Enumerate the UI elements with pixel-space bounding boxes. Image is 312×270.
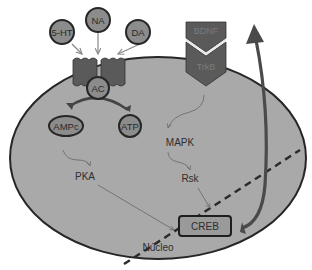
trkb-label: TrkB <box>197 62 216 72</box>
ligand-na-label: NA <box>91 15 105 26</box>
node-atp: ATP <box>119 115 141 137</box>
node-mapk-label: MAPK <box>166 137 195 148</box>
cell-body <box>10 57 306 259</box>
node-creb-label: CREB <box>191 221 219 232</box>
nucleus-label: Núcleo <box>142 242 174 253</box>
node-rsk-label: Rsk <box>181 173 199 184</box>
arrow-5ht-receptor <box>72 44 82 54</box>
node-ampc-label: AMPc <box>53 121 79 132</box>
ligand-da: DA <box>126 20 150 44</box>
ligand-na: NA <box>86 8 110 32</box>
bdnf-label: BDNF <box>194 26 219 36</box>
ligand-5ht-label: 5-HT <box>51 27 72 38</box>
bdnf-trkb-receptor: BDNF TrkB <box>186 22 226 86</box>
signaling-diagram: 5-HT NA DA AC AMPc ATP PKA BDNF TrkB MA <box>0 0 312 270</box>
ligand-5ht: 5-HT <box>50 20 74 44</box>
node-pka-label: PKA <box>75 171 95 182</box>
ligand-da-label: DA <box>131 27 145 38</box>
arrowhead-bdnf <box>246 24 264 44</box>
node-atp-label: ATP <box>121 121 139 132</box>
node-ac-label: AC <box>91 83 104 94</box>
node-creb: CREB <box>179 216 231 236</box>
node-ampc: AMPc <box>49 116 83 136</box>
node-ac: AC <box>87 77 109 99</box>
arrow-da-receptor <box>118 44 140 54</box>
